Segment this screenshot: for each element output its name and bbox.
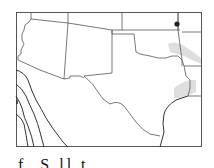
map-frame bbox=[17, 13, 202, 147]
contour-3 bbox=[16, 96, 34, 147]
border-nm-mexico bbox=[64, 76, 84, 79]
texas-gulf-coast bbox=[160, 96, 188, 147]
shaded-area-oklahoma bbox=[168, 42, 201, 64]
border-az-nm bbox=[64, 12, 68, 79]
map-figure: f. S ll t bbox=[0, 0, 214, 168]
shaded-area-texas bbox=[174, 80, 196, 98]
contour-4 bbox=[16, 114, 28, 147]
border-rio-grande bbox=[84, 76, 160, 136]
southwest-us-map bbox=[0, 0, 214, 168]
border-nm-tx bbox=[84, 30, 112, 76]
border-az-mexico bbox=[18, 60, 64, 79]
location-marker-icon bbox=[174, 21, 179, 26]
border-az-ca bbox=[18, 12, 31, 60]
contour-1 bbox=[16, 70, 68, 147]
contour-lines bbox=[16, 70, 68, 147]
contour-2 bbox=[16, 84, 44, 147]
figure-caption: f. S ll t bbox=[18, 157, 89, 168]
border-37n bbox=[31, 19, 180, 30]
